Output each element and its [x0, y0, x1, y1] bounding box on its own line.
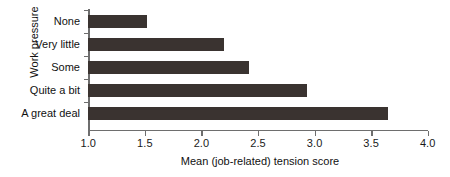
bar	[88, 61, 249, 74]
bar	[88, 107, 388, 120]
x-axis-tick-label: 1.5	[137, 137, 153, 149]
bar	[88, 15, 147, 28]
bar	[88, 84, 306, 97]
x-axis-tick-label: 1.0	[81, 137, 97, 149]
y-axis-tick-label: A great deal	[0, 107, 80, 119]
x-axis-tick-label: 3.0	[307, 137, 323, 149]
bar	[88, 38, 224, 51]
x-axis-tick	[315, 131, 316, 136]
y-axis-tick-label: Quite a bit	[0, 84, 80, 96]
x-axis-tick	[258, 131, 259, 136]
x-axis-tick-label: 2.5	[250, 137, 266, 149]
x-axis-tick	[145, 131, 146, 136]
y-axis-tick-label: Very little	[0, 38, 80, 50]
x-axis-tick	[428, 131, 429, 136]
y-axis-tick-label: Some	[0, 61, 80, 73]
plot-area	[88, 10, 427, 130]
x-axis-tick-label: 3.5	[363, 137, 379, 149]
bar-chart: Work pressure None Very little Some Quit…	[0, 0, 450, 177]
x-axis-tick-label: 2.0	[194, 137, 210, 149]
x-axis-tick	[88, 131, 89, 136]
x-axis-tick-label: 4.0	[420, 137, 436, 149]
x-axis-title-text: Mean (job-related) tension score	[111, 155, 339, 167]
x-axis-title: Mean (job-related) tension score	[0, 155, 450, 167]
x-axis-tick	[371, 131, 372, 136]
x-axis-tick	[201, 131, 202, 136]
y-axis-tick-label: None	[0, 15, 80, 27]
